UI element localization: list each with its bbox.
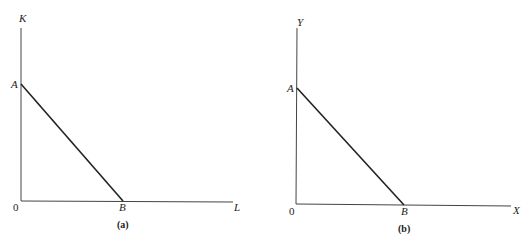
y-axis xyxy=(296,28,297,204)
x-axis-label: X xyxy=(512,204,521,216)
origin-label: 0 xyxy=(13,201,19,213)
line-ab xyxy=(297,88,404,205)
caption: (b) xyxy=(398,223,410,235)
origin-label: 0 xyxy=(289,205,295,217)
y-axis-label: Y xyxy=(297,16,305,28)
panel-a: K A 0 B L (a) xyxy=(10,12,240,231)
point-b-label: B xyxy=(401,205,408,217)
diagram-canvas: K A 0 B L (a) Y A 0 B X (b) xyxy=(0,0,524,242)
y-axis-label: K xyxy=(18,12,27,24)
point-a-label: A xyxy=(286,82,294,94)
point-b-label: B xyxy=(119,201,126,213)
caption: (a) xyxy=(117,219,129,231)
x-axis-label: L xyxy=(233,201,240,213)
panel-b: Y A 0 B X (b) xyxy=(286,16,521,235)
x-axis xyxy=(21,201,233,202)
point-a-label: A xyxy=(10,78,18,90)
line-ab xyxy=(21,84,123,201)
